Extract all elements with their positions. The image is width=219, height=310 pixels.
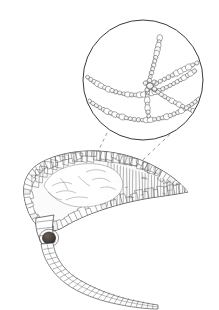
illustration-canvas — [0, 0, 219, 310]
chain-bead — [145, 110, 150, 115]
magnified-detail-circle — [83, 20, 203, 140]
figure-root — [0, 0, 219, 310]
eyespot — [42, 232, 55, 244]
